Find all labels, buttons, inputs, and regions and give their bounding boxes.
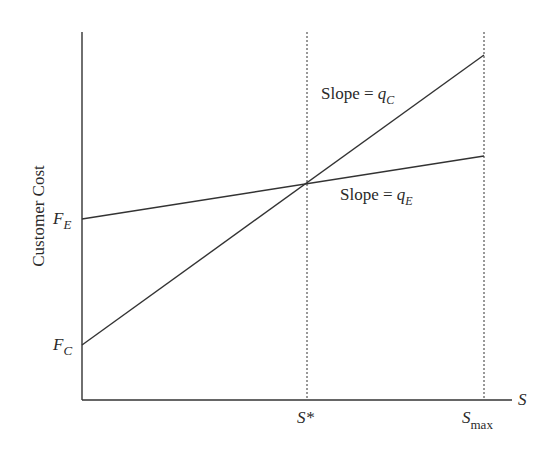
line-e-slope-qe bbox=[82, 156, 484, 219]
y-axis-label: Customer Cost bbox=[29, 165, 48, 267]
x-axis-label: S bbox=[518, 390, 527, 409]
slope-qe-annotation: Slope = qE bbox=[340, 185, 413, 208]
fc-label: FC bbox=[52, 335, 72, 358]
s-max-label: Smax bbox=[462, 408, 493, 432]
customer-cost-chart: Customer Cost FE FC S* Smax S Slope = qC… bbox=[0, 0, 556, 453]
fe-label: FE bbox=[52, 209, 71, 232]
s-star-label: S* bbox=[297, 408, 315, 427]
slope-qc-annotation: Slope = qC bbox=[321, 84, 395, 107]
line-c-slope-qc bbox=[82, 55, 484, 345]
